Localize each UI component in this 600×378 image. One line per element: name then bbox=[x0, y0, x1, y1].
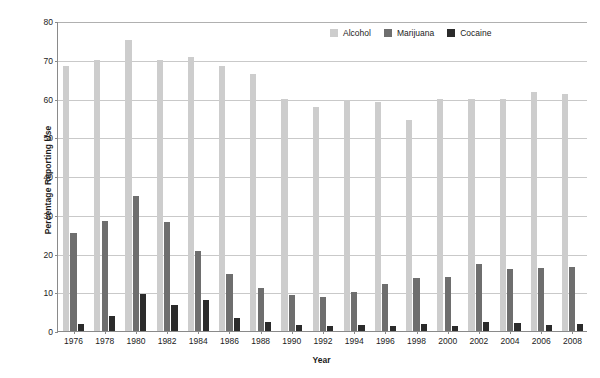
bar-cocaine-1982 bbox=[171, 305, 177, 331]
x-tick-mark bbox=[74, 331, 75, 334]
legend-swatch-icon bbox=[330, 29, 338, 37]
y-tick-label: 60 bbox=[44, 95, 53, 105]
bar-group bbox=[313, 22, 334, 331]
bar-alcohol-1994 bbox=[344, 100, 350, 331]
x-tick-mark bbox=[541, 331, 542, 334]
bar-alcohol-1988 bbox=[250, 74, 256, 331]
legend-swatch-icon bbox=[384, 29, 392, 37]
bar-alcohol-1984 bbox=[188, 57, 194, 331]
x-tick-mark bbox=[572, 331, 573, 334]
bar-group bbox=[375, 22, 396, 331]
y-tick-label: 0 bbox=[48, 327, 53, 337]
x-axis-title: Year bbox=[57, 355, 586, 365]
bar-group bbox=[250, 22, 271, 331]
bars-layer bbox=[58, 22, 587, 331]
bar-cocaine-1980 bbox=[140, 294, 146, 331]
bar-group bbox=[219, 22, 240, 331]
bar-alcohol-1998 bbox=[406, 120, 412, 331]
y-tick-label: 40 bbox=[44, 172, 53, 182]
bar-cocaine-2008 bbox=[577, 324, 583, 331]
x-tick-mark bbox=[229, 331, 230, 334]
bar-cocaine-1996 bbox=[390, 326, 396, 331]
bar-cocaine-2004 bbox=[514, 323, 520, 331]
bar-chart: Percentage Reporting Use 010203040506070… bbox=[0, 0, 600, 378]
x-tick-label-2006: 2006 bbox=[532, 336, 551, 346]
bar-marijuana-1980 bbox=[133, 196, 139, 331]
bar-alcohol-2006 bbox=[531, 92, 537, 331]
bar-marijuana-1996 bbox=[382, 284, 388, 331]
x-tick-label-2004: 2004 bbox=[501, 336, 520, 346]
bar-marijuana-1982 bbox=[164, 222, 170, 331]
x-tick-label-2000: 2000 bbox=[438, 336, 457, 346]
bar-alcohol-1982 bbox=[157, 60, 163, 331]
x-tick-mark bbox=[136, 331, 137, 334]
bar-group bbox=[406, 22, 427, 331]
y-tick-label: 70 bbox=[44, 56, 53, 66]
bar-marijuana-2006 bbox=[538, 268, 544, 331]
legend-item-marijuana: Marijuana bbox=[384, 28, 434, 38]
legend-swatch-icon bbox=[447, 29, 455, 37]
bar-alcohol-1976 bbox=[63, 66, 69, 331]
bar-group bbox=[63, 22, 84, 331]
bar-cocaine-1990 bbox=[296, 325, 302, 331]
bar-marijuana-2004 bbox=[507, 269, 513, 331]
bar-group bbox=[188, 22, 209, 331]
x-tick-label-1976: 1976 bbox=[64, 336, 83, 346]
x-tick-label-1988: 1988 bbox=[251, 336, 270, 346]
bar-alcohol-1996 bbox=[375, 102, 381, 331]
bar-marijuana-1992 bbox=[320, 297, 326, 331]
bar-group bbox=[562, 22, 583, 331]
bar-cocaine-2006 bbox=[546, 325, 552, 331]
legend-item-cocaine: Cocaine bbox=[447, 28, 491, 38]
bar-alcohol-2008 bbox=[562, 94, 568, 331]
bar-alcohol-2004 bbox=[500, 99, 506, 332]
bar-cocaine-1994 bbox=[358, 325, 364, 331]
plot-area: 01020304050607080 1976197819801982198419… bbox=[57, 22, 587, 332]
bar-group bbox=[531, 22, 552, 331]
bar-marijuana-1990 bbox=[289, 295, 295, 331]
x-tick-mark bbox=[448, 331, 449, 334]
x-tick-mark bbox=[417, 331, 418, 334]
bar-alcohol-1992 bbox=[313, 107, 319, 331]
x-tick-label-1994: 1994 bbox=[345, 336, 364, 346]
x-tick-mark bbox=[167, 331, 168, 334]
bar-cocaine-2002 bbox=[483, 322, 489, 331]
bar-marijuana-1986 bbox=[226, 274, 232, 331]
bar-cocaine-1988 bbox=[265, 322, 271, 331]
bar-cocaine-2000 bbox=[452, 326, 458, 331]
x-tick-mark bbox=[479, 331, 480, 334]
y-tick-mark bbox=[55, 332, 58, 333]
bar-alcohol-1986 bbox=[219, 66, 225, 331]
x-tick-mark bbox=[510, 331, 511, 334]
bar-group bbox=[157, 22, 178, 331]
bar-marijuana-2002 bbox=[476, 264, 482, 331]
bar-marijuana-1988 bbox=[258, 288, 264, 331]
bar-group bbox=[281, 22, 302, 331]
x-tick-label-1990: 1990 bbox=[282, 336, 301, 346]
y-tick-label: 10 bbox=[44, 288, 53, 298]
x-tick-label-2002: 2002 bbox=[469, 336, 488, 346]
bar-group bbox=[437, 22, 458, 331]
x-tick-mark bbox=[105, 331, 106, 334]
bar-group bbox=[500, 22, 521, 331]
bar-marijuana-1976 bbox=[70, 233, 76, 331]
bar-marijuana-2008 bbox=[569, 267, 575, 331]
bar-alcohol-1978 bbox=[94, 60, 100, 331]
bar-marijuana-1984 bbox=[195, 251, 201, 331]
bar-cocaine-1984 bbox=[203, 300, 209, 331]
bar-alcohol-2000 bbox=[437, 99, 443, 332]
bar-marijuana-1978 bbox=[102, 221, 108, 331]
x-tick-mark bbox=[261, 331, 262, 334]
bar-cocaine-1992 bbox=[327, 326, 333, 331]
x-tick-label-2008: 2008 bbox=[563, 336, 582, 346]
x-tick-label-1978: 1978 bbox=[95, 336, 114, 346]
x-tick-label-1996: 1996 bbox=[376, 336, 395, 346]
x-tick-label-1982: 1982 bbox=[158, 336, 177, 346]
bar-alcohol-1980 bbox=[125, 40, 131, 331]
bar-group bbox=[344, 22, 365, 331]
bar-cocaine-1976 bbox=[78, 324, 84, 331]
legend: AlcoholMarijuanaCocaine bbox=[330, 28, 491, 38]
x-tick-mark bbox=[354, 331, 355, 334]
x-tick-mark bbox=[292, 331, 293, 334]
bar-marijuana-2000 bbox=[445, 277, 451, 331]
